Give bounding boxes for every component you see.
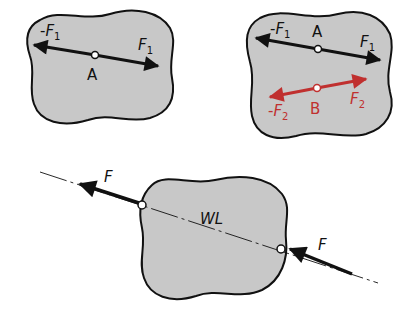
label-force-left: F [104,168,113,186]
force-diagram: -F1 F1 A -F1 A F1 -F2 B F2 F F WL [0,0,413,312]
label-force-right: F [318,236,327,254]
panel-1-rigid-body: -F1 F1 A [27,10,173,123]
label-wl: WL [200,210,223,228]
point-a [315,46,322,53]
point-b [314,85,321,92]
label-point-a: A [312,23,323,41]
point-a [92,52,99,59]
body-outline [140,177,287,299]
panel-3-line-of-action: F F WL [40,168,378,299]
point-left [138,201,146,209]
label-point-b: B [310,100,320,118]
force-arrow-left [80,184,142,204]
label-point-a: A [87,66,98,84]
point-right [277,245,285,253]
panel-2-rigid-body: -F1 A F1 -F2 B F2 [247,12,392,138]
